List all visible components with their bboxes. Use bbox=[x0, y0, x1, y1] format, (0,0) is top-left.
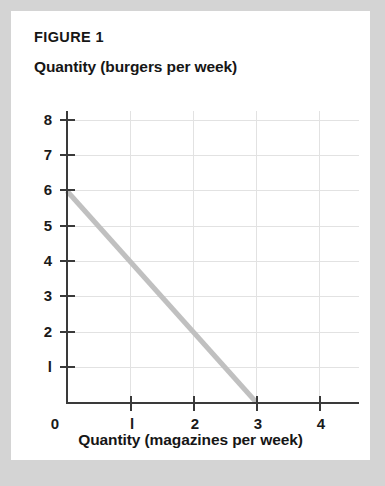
x-tick-label: l bbox=[120, 416, 144, 431]
y-tick-label: 7 bbox=[32, 147, 52, 162]
series-line-budget-constraint bbox=[67, 191, 256, 402]
y-tick-label: 4 bbox=[32, 253, 52, 268]
y-tick-label: 3 bbox=[32, 288, 52, 303]
x-axis-line bbox=[66, 402, 359, 404]
y-tick-label: l bbox=[32, 359, 52, 374]
y-axis-tick bbox=[60, 366, 75, 368]
x-axis-title: Quantity (magazines per week) bbox=[11, 431, 370, 449]
y-axis-tick bbox=[60, 260, 75, 262]
x-axis-tick bbox=[319, 396, 321, 411]
x-tick-label: 0 bbox=[43, 416, 67, 431]
x-axis-tick bbox=[256, 396, 258, 411]
y-tick-label: 2 bbox=[32, 324, 52, 339]
y-axis-tick bbox=[60, 331, 75, 333]
plot-area: 8 7 6 5 4 3 2 l 0 l 2 3 4 bbox=[56, 111, 361, 411]
x-tick-label: 4 bbox=[309, 416, 333, 431]
y-axis-tick bbox=[60, 154, 75, 156]
y-tick-label: 6 bbox=[32, 182, 52, 197]
y-axis-tick bbox=[60, 119, 75, 121]
x-tick-label: 2 bbox=[183, 416, 207, 431]
y-axis-tick bbox=[60, 225, 75, 227]
y-tick-label: 5 bbox=[32, 218, 52, 233]
x-axis-tick bbox=[193, 396, 195, 411]
budget-constraint-line bbox=[56, 111, 361, 411]
x-tick-label: 3 bbox=[246, 416, 270, 431]
figure-title: FIGURE 1 bbox=[34, 29, 104, 45]
y-axis-tick bbox=[60, 189, 75, 191]
figure-card: FIGURE 1 Quantity (burgers per week) bbox=[11, 11, 370, 460]
y-axis-title: Quantity (burgers per week) bbox=[34, 58, 237, 76]
y-axis-tick bbox=[60, 295, 75, 297]
y-tick-label: 8 bbox=[32, 112, 52, 127]
x-axis-tick bbox=[130, 396, 132, 411]
